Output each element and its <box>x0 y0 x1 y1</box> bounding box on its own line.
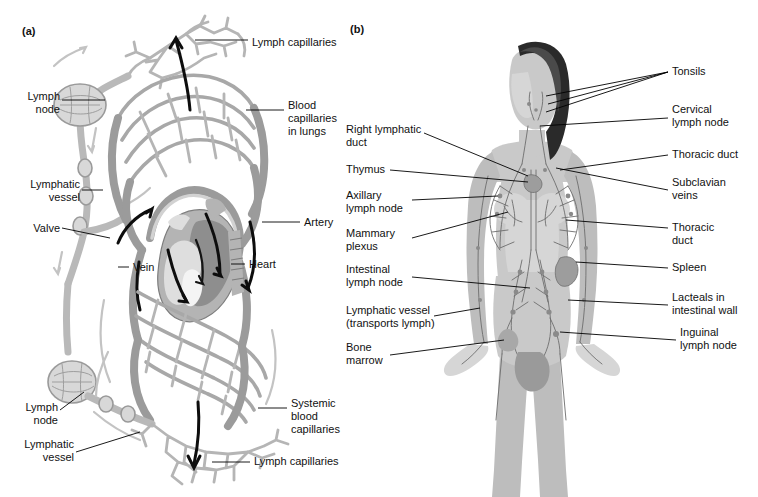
label-intestinal-lymph-node: Intestinal lymph node <box>346 263 403 289</box>
valve-knots-lower <box>99 396 135 422</box>
label-lymph-capillaries-top: Lymph capillaries <box>252 36 337 49</box>
leader-valve <box>62 228 110 238</box>
label-systemic-blood-capillaries: Systemic blood capillaries <box>291 397 340 436</box>
label-thoracic-duct-lower: Thoracic duct <box>672 221 714 247</box>
leader-axillary-lymph-node <box>412 196 498 200</box>
leader-inguinal-lymph-node <box>560 332 676 340</box>
leader-spleen <box>576 262 668 268</box>
lymph-capillary-plexus-top <box>126 16 245 88</box>
label-lymph-node-top: Lymph node <box>0 90 60 116</box>
lymph-node-upper <box>54 84 106 126</box>
label-bone-marrow: Bone marrow <box>346 341 383 367</box>
label-lacteals-in-intestinal-wall: Lacteals in intestinal wall <box>672 291 737 317</box>
leader-lymphatic-vessel-transports <box>434 308 480 316</box>
thymus-organ <box>524 175 542 193</box>
leader-lymphatic-vessel-bottom <box>76 432 140 452</box>
bone-marrow-region <box>498 329 518 351</box>
spleen-organ <box>555 257 578 287</box>
label-cervical-lymph-node: Cervical lymph node <box>672 103 729 129</box>
lymph-capillary-plexus-bottom <box>132 424 288 484</box>
heart <box>158 198 244 321</box>
leader-intestinal-lymph-node <box>412 277 530 288</box>
leader-subclavian-veins <box>556 168 668 190</box>
panel-b-artwork <box>436 42 628 497</box>
leader-thoracic-duct-lower <box>566 220 668 228</box>
label-lymph-node-bottom: Lymph node <box>0 401 58 427</box>
label-lymphatic-vessel-top: Lymphatic vessel <box>0 178 80 204</box>
label-artery: Artery <box>304 216 333 229</box>
label-subclavian-veins: Subclavian veins <box>672 176 726 202</box>
label-lymph-capillaries-bottom: Lymph capillaries <box>254 455 339 468</box>
leader-bone-marrow <box>390 340 504 355</box>
label-thymus: Thymus <box>346 163 385 176</box>
lymph-nodes <box>476 102 588 337</box>
panel-a-artwork <box>48 16 288 484</box>
label-right-lymphatic-duct: Right lymphatic duct <box>346 123 421 149</box>
label-heart: Heart <box>249 258 276 271</box>
label-spleen: Spleen <box>672 261 706 274</box>
label-lymphatic-vessel-transports-lymph: Lymphatic vessel (transports lymph) <box>346 304 435 330</box>
lung-capillary-network <box>118 75 254 182</box>
lymphatic-system-figure: (a) (b) Lymph capillaries Lymph node Blo… <box>0 0 758 497</box>
leader-thymus <box>390 170 528 182</box>
label-blood-capillaries-in-lungs: Blood capillaries in lungs <box>288 99 337 138</box>
panel-a-tag: (a) <box>22 25 35 37</box>
label-inguinal-lymph-node: Inguinal lymph node <box>680 326 737 352</box>
leader-lacteals <box>568 300 668 305</box>
leader-mammary-plexus <box>412 212 508 238</box>
leader-tonsils-1 <box>546 72 668 96</box>
leader-thoracic-duct-upper <box>560 155 668 170</box>
label-vein: Vein <box>133 261 154 274</box>
leader-tonsils-3 <box>546 72 668 112</box>
leader-tonsils-2 <box>548 72 668 104</box>
label-tonsils: Tonsils <box>672 65 706 78</box>
panel-b-tag: (b) <box>350 23 364 35</box>
female-figure <box>436 42 628 497</box>
systemic-capillary-network <box>136 292 266 422</box>
blood-flow-arrows <box>118 209 254 310</box>
leader-right-lymphatic-duct <box>424 133 528 176</box>
leader-cervical-lymph-node <box>540 118 668 126</box>
leader-lymph-node-bottom <box>60 392 84 410</box>
lymph-node-lower <box>48 361 96 403</box>
label-thoracic-duct-upper: Thoracic duct <box>672 148 738 161</box>
label-valve: Valve <box>0 222 60 235</box>
label-axillary-lymph-node: Axillary lymph node <box>346 189 403 215</box>
label-mammary-plexus: Mammary plexus <box>346 227 395 253</box>
lymphatic-vessel-network <box>462 92 602 420</box>
label-lymphatic-vessel-bottom: Lymphatic vessel <box>0 438 74 464</box>
